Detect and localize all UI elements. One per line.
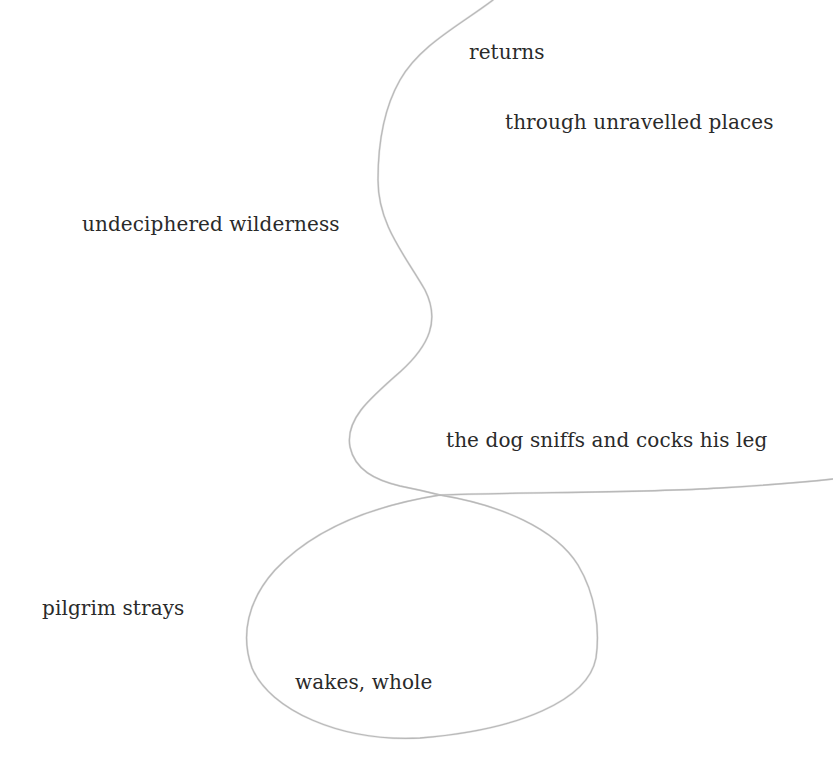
poem-page: returns through unravelled places undeci… xyxy=(0,0,833,777)
poem-fragment-pilgrim-strays: pilgrim strays xyxy=(42,598,184,618)
pencil-line-halo xyxy=(349,0,833,495)
poem-fragment-the-dog-sniffs: the dog sniffs and cocks his leg xyxy=(446,430,767,450)
pencil-line-upper xyxy=(349,0,833,495)
pencil-loop xyxy=(247,495,598,738)
poem-fragment-returns: returns xyxy=(469,42,545,62)
poem-fragment-through-unravelled-places: through unravelled places xyxy=(505,112,774,132)
poem-fragment-undeciphered-wilderness: undeciphered wilderness xyxy=(82,214,340,234)
poem-fragment-wakes-whole: wakes, whole xyxy=(295,672,432,692)
